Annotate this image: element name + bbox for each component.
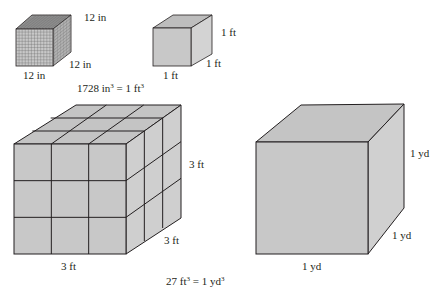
yard-cube-bottom-label: 1 yd (302, 261, 321, 272)
foot-cube-bottom-label: 1 ft (163, 70, 178, 81)
yard-cube (256, 104, 404, 254)
inch-cube-bottom-label: 12 in (23, 70, 45, 81)
three-foot-cube (14, 105, 181, 254)
equation-inches-to-feet: 1728 in3 = 1 ft3 (77, 83, 144, 94)
inch-cube-depth-label: 12 in (69, 59, 91, 70)
inch-grid-cube (16, 15, 71, 66)
equation-feet-to-yards: 27 ft3 = 1 yd3 (166, 276, 224, 287)
foot-cube (153, 15, 212, 66)
yard-cube-height-label: 1 yd (410, 148, 429, 159)
three-foot-cube-height-label: 3 ft (189, 159, 204, 170)
yard-cube-depth-label: 1 yd (392, 230, 411, 241)
foot-cube-depth-label: 1 ft (206, 58, 221, 69)
three-foot-cube-depth-label: 3 ft (164, 235, 179, 246)
three-foot-cube-bottom-label: 3 ft (61, 261, 76, 272)
inch-cube-top-label: 12 in (84, 12, 106, 23)
cube-diagram (0, 0, 441, 297)
foot-cube-height-label: 1 ft (221, 27, 236, 38)
